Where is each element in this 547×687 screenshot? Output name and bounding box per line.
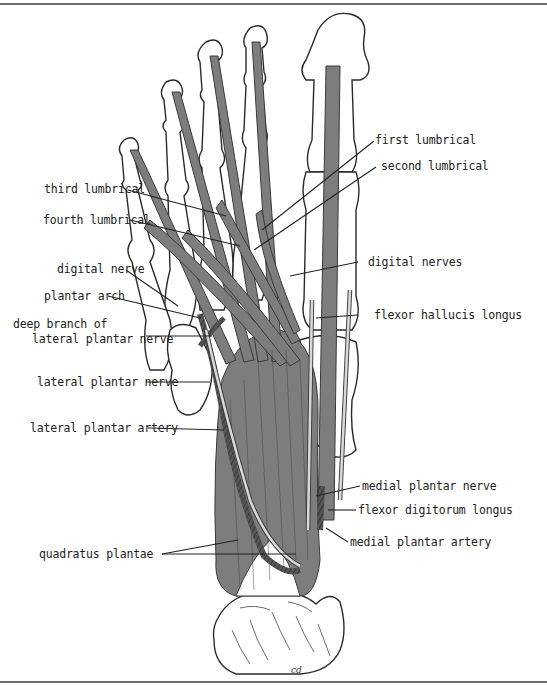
label-flexor-digitorum-longus: flexor digitorum longus [358,504,513,517]
label-flexor-hallucis-longus: flexor hallucis longus [374,309,522,322]
label-deep-branch-line1: deep branch of [13,318,107,331]
label-quadratus-plantae: quadratus plantae [39,548,153,561]
label-digital-nerves: digital nerves [368,256,462,269]
label-digital-nerve: digital nerve [57,263,144,276]
label-lateral-plantar-artery: lateral plantar artery [30,422,178,435]
label-medial-plantar-artery: medial plantar artery [350,536,491,549]
label-first-lumbrical: first lumbrical [375,134,476,147]
label-medial-plantar-nerve: medial plantar nerve [362,480,496,493]
medial-plantar-artery-vessel [320,486,322,530]
label-plantar-arch: plantar arch [44,290,125,303]
label-third-lumbrical: third lumbrical [44,183,145,196]
label-fourth-lumbrical: fourth lumbrical [43,214,151,227]
label-deep-branch-line2: lateral plantar nerve [32,333,173,346]
label-lateral-plantar-nerve: lateral plantar nerve [37,376,178,389]
label-second-lumbrical: second lumbrical [381,160,489,173]
artist-signature: cd [291,665,302,675]
